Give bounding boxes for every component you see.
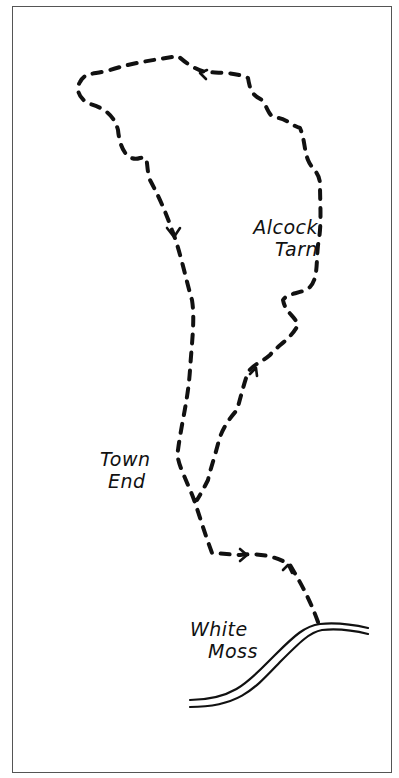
label-alcock-tarn: Alcock Tarn — [238, 216, 318, 260]
label-line: Alcock — [238, 216, 318, 238]
label-line: Town — [100, 448, 168, 470]
label-town-end: Town End — [100, 448, 168, 492]
direction-arrows — [167, 70, 292, 573]
arrow-icon — [200, 70, 207, 79]
label-line: Moss — [190, 640, 280, 662]
label-white-moss: White Moss — [190, 618, 280, 662]
label-line: White — [190, 618, 280, 640]
label-line: Tarn — [238, 238, 318, 260]
label-line: End — [100, 470, 168, 492]
route-path — [78, 56, 320, 622]
